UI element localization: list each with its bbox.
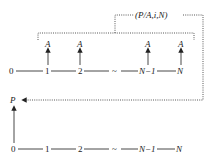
cash-flow-diagram: 0 1 2 ~ N−1 N A A A A (P/A,i,N) P 0 1	[0, 0, 215, 166]
top-tick-2: 2	[78, 66, 83, 76]
top-tick-n: N	[176, 66, 184, 76]
factor-connector: (P/A,i,N)	[24, 10, 203, 100]
bottom-tick-2: 2	[78, 144, 83, 154]
annuity-label: A	[44, 39, 51, 49]
top-tick-ellipsis: ~	[112, 66, 117, 76]
connector-left	[115, 15, 134, 33]
annuity-arrows: A A A A	[44, 39, 184, 65]
top-tick-n-minus-1: N−1	[138, 66, 156, 76]
bottom-tick-n: N	[175, 144, 183, 154]
bottom-tick-ellipsis: ~	[112, 144, 117, 154]
annuity-label: A	[177, 39, 184, 49]
bottom-timeline: 0 1 2 ~ N−1 N	[11, 144, 183, 154]
annuity-label: A	[144, 39, 151, 49]
present-value-label: P	[9, 95, 16, 105]
annuity-label: A	[76, 39, 83, 49]
present-value: P	[9, 95, 16, 143]
annuity-bracket	[38, 33, 194, 40]
top-timeline: 0 1 2 ~ N−1 N	[9, 66, 184, 76]
top-tick-0: 0	[9, 66, 14, 76]
connector-to-present	[24, 15, 203, 100]
bottom-tick-0: 0	[11, 144, 16, 154]
top-tick-1: 1	[45, 66, 50, 76]
factor-label: (P/A,i,N)	[135, 10, 168, 20]
bottom-tick-1: 1	[45, 144, 50, 154]
bottom-tick-n-minus-1: N−1	[138, 144, 156, 154]
